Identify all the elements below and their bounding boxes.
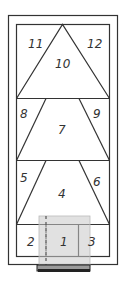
label-9: 9 — [93, 107, 101, 121]
label-5: 5 — [20, 171, 28, 185]
base-bar-shadow — [38, 269, 90, 272]
label-1: 1 — [60, 235, 68, 249]
label-4: 4 — [58, 187, 66, 201]
label-8: 8 — [20, 107, 28, 121]
label-6: 6 — [93, 175, 101, 189]
label-11: 11 — [28, 37, 43, 51]
label-10: 10 — [55, 57, 71, 71]
label-12: 12 — [87, 37, 102, 51]
panel-diagram: 11 12 10 8 9 7 5 6 4 2 1 3 — [0, 0, 122, 290]
region-4-right-edge — [79, 161, 110, 225]
label-2: 2 — [27, 235, 35, 249]
label-3: 3 — [88, 235, 96, 249]
diagram-canvas: 11 12 10 8 9 7 5 6 4 2 1 3 — [0, 0, 122, 290]
label-7: 7 — [58, 123, 66, 137]
